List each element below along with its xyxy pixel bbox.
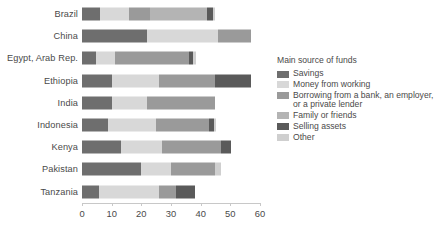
bar-segment[interactable] [159, 74, 215, 87]
legend-label: Family or friends [293, 111, 357, 121]
bar-segment[interactable] [96, 52, 114, 65]
bar-segment[interactable] [112, 96, 148, 109]
category-label: India [0, 98, 82, 108]
chart-container: BrazilChinaEgypt, Arab Rep.EthiopiaIndia… [0, 0, 445, 230]
bar-row: Brazil [0, 3, 272, 25]
stacked-bar[interactable] [82, 96, 215, 109]
x-axis-tick-label: 30 [166, 208, 176, 219]
bar-segment[interactable] [156, 119, 209, 132]
bar-row: India [0, 92, 272, 114]
x-axis-tick-label: 60 [255, 208, 265, 219]
category-label: Indonesia [0, 120, 82, 130]
bar-row: Egypt, Arab Rep. [0, 47, 272, 69]
legend-item[interactable]: Money from working [277, 80, 442, 90]
bar-segment[interactable] [82, 185, 99, 198]
legend-swatch-icon [277, 123, 289, 130]
x-axis-tick-label: 40 [195, 208, 205, 219]
bar-segment[interactable] [176, 185, 194, 198]
x-axis-tick [230, 203, 231, 206]
stacked-bar[interactable] [82, 8, 215, 21]
bar-track [82, 92, 272, 114]
bar-row: Indonesia [0, 114, 272, 136]
legend-item[interactable]: Other [277, 133, 442, 143]
bar-segment[interactable] [82, 119, 108, 132]
legend-swatch-icon [277, 112, 289, 119]
x-axis-tick-label: 10 [106, 208, 116, 219]
bar-segment[interactable] [82, 52, 96, 65]
bar-segment[interactable] [82, 74, 112, 87]
x-axis-tick [260, 203, 261, 206]
x-axis-tick [201, 203, 202, 206]
bar-row: China [0, 25, 272, 47]
bar-segment[interactable] [82, 141, 121, 154]
legend-swatch-icon [277, 134, 289, 141]
bar-segment[interactable] [129, 8, 150, 21]
bar-track [82, 70, 272, 92]
bar-track [82, 181, 272, 203]
bar-row: Ethiopia [0, 70, 272, 92]
bar-segment[interactable] [159, 185, 177, 198]
bar-segment[interactable] [215, 74, 251, 87]
legend: Main source of funds SavingsMoney from w… [277, 55, 442, 143]
legend-item[interactable]: Selling assets [277, 122, 442, 132]
bar-segment[interactable] [214, 119, 216, 132]
stacked-bar[interactable] [82, 141, 231, 154]
bar-track [82, 114, 272, 136]
bar-segment[interactable] [121, 141, 163, 154]
legend-label: Money from working [293, 80, 370, 90]
bar-track [82, 47, 272, 69]
bar-segment[interactable] [115, 52, 189, 65]
bar-track [82, 136, 272, 158]
stacked-bar[interactable] [82, 185, 195, 198]
x-axis-tick-label: 0 [79, 208, 84, 219]
bar-segment[interactable] [147, 96, 215, 109]
x-axis-tick [171, 203, 172, 206]
legend-label: Savings [293, 69, 324, 79]
category-label: Egypt, Arab Rep. [0, 53, 82, 63]
legend-label: Other [293, 133, 315, 143]
bar-track [82, 158, 272, 180]
legend-item[interactable]: Savings [277, 69, 442, 79]
bar-segment[interactable] [99, 185, 158, 198]
bar-segment[interactable] [82, 163, 141, 176]
bar-segment[interactable] [215, 163, 221, 176]
x-axis-tick-label: 20 [136, 208, 146, 219]
bar-segment[interactable] [213, 8, 216, 21]
legend-swatch-icon [277, 71, 289, 78]
legend-item[interactable]: Borrowing from a bank, an employer, or a… [277, 91, 442, 110]
category-label: China [0, 31, 82, 41]
bar-segment[interactable] [141, 163, 171, 176]
bar-row: Tanzania [0, 181, 272, 203]
bar-segment[interactable] [112, 74, 159, 87]
stacked-bar[interactable] [82, 119, 216, 132]
bar-segment[interactable] [162, 141, 221, 154]
x-axis-tick [141, 203, 142, 206]
bar-row: Pakistan [0, 158, 272, 180]
bar-segment[interactable] [108, 119, 155, 132]
stacked-bar[interactable] [82, 52, 196, 65]
bar-segment[interactable] [218, 30, 251, 43]
bar-segment[interactable] [147, 30, 218, 43]
bar-segment[interactable] [82, 96, 112, 109]
legend-items: SavingsMoney from workingBorrowing from … [277, 69, 442, 142]
legend-item[interactable]: Family or friends [277, 111, 442, 121]
bar-track [82, 3, 272, 25]
bar-segment[interactable] [193, 52, 195, 65]
stacked-bar[interactable] [82, 74, 251, 87]
bar-segment[interactable] [171, 163, 216, 176]
stacked-bar[interactable] [82, 30, 251, 43]
category-label: Tanzania [0, 187, 82, 197]
category-label: Kenya [0, 142, 82, 152]
legend-title: Main source of funds [277, 55, 442, 65]
legend-label: Borrowing from a bank, an employer, or a… [293, 91, 442, 110]
bar-segment[interactable] [221, 141, 230, 154]
x-axis-tick [82, 203, 83, 206]
bar-segment[interactable] [150, 8, 206, 21]
bar-segment[interactable] [82, 30, 147, 43]
plot-area: BrazilChinaEgypt, Arab Rep.EthiopiaIndia… [0, 0, 272, 230]
stacked-bar[interactable] [82, 163, 221, 176]
bar-segment[interactable] [82, 8, 100, 21]
bar-segment[interactable] [100, 8, 130, 21]
bar-row: Kenya [0, 136, 272, 158]
x-axis-tick [112, 203, 113, 206]
